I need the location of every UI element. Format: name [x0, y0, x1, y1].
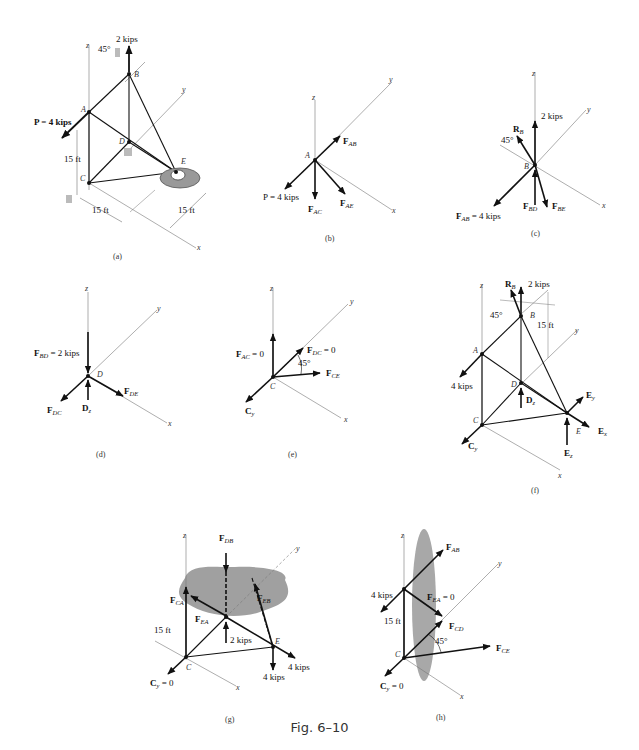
svg-text:E: E [575, 427, 581, 436]
svg-text:P = 4 kips: P = 4 kips [263, 192, 299, 202]
svg-text:y: y [388, 75, 393, 84]
svg-text:2 kips: 2 kips [528, 279, 550, 289]
svg-text:2 kips: 2 kips [541, 111, 563, 121]
svg-text:y: y [156, 304, 161, 313]
svg-text:FAB = 4 kips: FAB = 4 kips [456, 211, 501, 222]
svg-text:(d): (d) [96, 450, 106, 459]
panel-b: z y x A FAB FAC FAE P = 4 kips (b) [263, 75, 396, 243]
svg-text:y: y [349, 297, 354, 306]
svg-text:y: y [574, 326, 579, 335]
svg-text:FAC: FAC [308, 204, 322, 215]
svg-text:C: C [80, 174, 86, 183]
svg-text:z: z [84, 284, 89, 293]
svg-text:x: x [235, 683, 240, 692]
svg-text:4 kips: 4 kips [288, 662, 310, 672]
svg-text:FCE: FCE [496, 643, 510, 654]
svg-text:A: A [304, 151, 310, 160]
svg-text:x: x [196, 243, 201, 252]
svg-text:Ez: Ez [564, 448, 573, 459]
svg-text:Cy = 0: Cy = 0 [380, 681, 404, 692]
svg-text:Ey: Ey [586, 390, 595, 401]
svg-text:4 kips: 4 kips [451, 381, 473, 391]
svg-text:15 ft: 15 ft [178, 205, 195, 215]
svg-text:x: x [343, 415, 348, 424]
svg-text:15 ft: 15 ft [154, 625, 171, 635]
svg-text:C: C [395, 650, 401, 659]
svg-text:x: x [601, 201, 606, 210]
svg-text:(c): (c) [531, 229, 540, 238]
panel-e: z y x C FAC = 0 FDC = 0 45° FCE Cy (e) [236, 284, 354, 459]
svg-text:4 kips: 4 kips [371, 590, 393, 600]
svg-text:Cy = 0: Cy = 0 [150, 678, 174, 689]
svg-text:E: E [180, 157, 186, 166]
svg-text:FDC: FDC [47, 405, 62, 416]
svg-text:x: x [459, 692, 464, 701]
svg-text:4 kips: 4 kips [263, 672, 285, 682]
svg-text:A: A [472, 346, 478, 355]
svg-text:(f): (f) [531, 486, 539, 495]
svg-text:45°: 45° [98, 44, 111, 54]
svg-text:Dz: Dz [82, 403, 92, 414]
svg-text:Cy: Cy [468, 441, 478, 452]
svg-text:FCE: FCE [326, 368, 340, 379]
svg-text:Cy: Cy [245, 406, 255, 417]
svg-text:15 ft: 15 ft [384, 616, 401, 626]
panel-c: z y x B 2 kips RB 45° FAB = 4 kips FBD F… [456, 69, 606, 238]
svg-text:RB: RB [513, 124, 524, 135]
svg-text:D: D [118, 137, 125, 146]
panel-f: z x y 2 [451, 279, 607, 495]
svg-text:15 ft: 15 ft [64, 154, 81, 164]
svg-text:y: y [586, 105, 591, 114]
svg-text:B: B [524, 162, 529, 171]
svg-text:(e): (e) [288, 450, 297, 459]
svg-text:A: A [80, 105, 86, 114]
svg-text:E: E [274, 637, 280, 646]
figure-caption: Fig. 6–10 [0, 720, 639, 735]
svg-text:FAC = 0: FAC = 0 [236, 349, 264, 360]
truss-figure: z x y [0, 0, 639, 750]
svg-text:y: y [181, 85, 186, 94]
svg-text:C: C [186, 663, 192, 672]
svg-text:B: B [134, 70, 139, 79]
svg-text:2 kips: 2 kips [230, 635, 252, 645]
svg-text:x: x [557, 471, 562, 480]
svg-text:y: y [497, 559, 502, 568]
svg-text:(a): (a) [113, 252, 122, 261]
panel-a: z x y [34, 34, 206, 261]
svg-text:FDE: FDE [124, 386, 138, 397]
svg-text:FBE: FBE [552, 201, 565, 212]
svg-text:x: x [391, 206, 396, 215]
svg-text:45°: 45° [298, 358, 311, 368]
svg-text:15 ft: 15 ft [92, 205, 109, 215]
svg-text:FDC = 0: FDC = 0 [307, 345, 336, 356]
svg-text:FEA: FEA [195, 614, 208, 625]
svg-text:B: B [530, 311, 535, 320]
svg-text:D: D [96, 370, 103, 379]
svg-text:45°: 45° [435, 636, 448, 646]
panel-d: z y x D FBD = 2 kips FDE FDC Dz (d) [34, 284, 172, 459]
svg-text:y: y [295, 544, 300, 553]
svg-text:x: x [167, 419, 172, 428]
svg-text:45°: 45° [490, 310, 503, 320]
panel-g: z y x FDB FCA FEB FEA 15 ft 2 kips E [150, 531, 310, 724]
svg-text:RB: RB [505, 279, 516, 290]
svg-text:D: D [510, 380, 517, 389]
svg-text:FAB: FAB [446, 542, 459, 553]
svg-text:C: C [473, 416, 479, 425]
svg-text:45°: 45° [501, 135, 514, 145]
svg-text:FDB: FDB [219, 533, 233, 544]
svg-text:P = 4 kips: P = 4 kips [34, 117, 72, 127]
svg-text:C: C [270, 382, 276, 391]
svg-text:FAB: FAB [343, 136, 356, 147]
svg-text:FBD = 2 kips: FBD = 2 kips [34, 348, 80, 359]
svg-text:z: z [479, 281, 484, 290]
svg-text:FCD: FCD [449, 621, 464, 632]
svg-text:FEA = 0: FEA = 0 [427, 592, 455, 603]
svg-text:15 ft: 15 ft [537, 320, 554, 330]
svg-text:Dz: Dz [526, 395, 536, 406]
svg-text:2 kips: 2 kips [116, 34, 138, 44]
panel-h: z y x FAB 4 kips FEA = 0 15 ft FCD 45° F… [371, 529, 510, 722]
svg-text:(b): (b) [325, 234, 335, 243]
svg-text:FAE: FAE [340, 198, 353, 209]
svg-text:Ex: Ex [598, 426, 607, 437]
